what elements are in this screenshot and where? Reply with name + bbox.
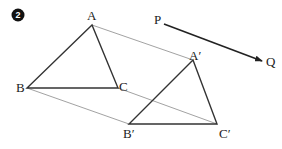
label-c-prime: C′ bbox=[219, 126, 231, 141]
label-c: C bbox=[119, 79, 128, 94]
label-p: P bbox=[154, 12, 161, 27]
label-q: Q bbox=[266, 54, 276, 69]
connector-c-c-prime bbox=[118, 88, 217, 124]
label-a: A bbox=[87, 8, 97, 23]
label-a-prime: A′ bbox=[189, 48, 201, 63]
problem-number: 2 bbox=[15, 10, 20, 20]
translation-diagram: 2 A B C A′ B′ C′ P Q bbox=[0, 0, 282, 149]
connector-a-a-prime bbox=[92, 25, 193, 60]
connector-b-b-prime bbox=[27, 88, 129, 124]
label-b: B bbox=[16, 80, 25, 95]
triangle-abc bbox=[27, 25, 118, 88]
problem-number-badge: 2 bbox=[12, 9, 25, 22]
translation-connectors bbox=[27, 25, 217, 124]
label-b-prime: B′ bbox=[123, 126, 135, 141]
triangle-a-prime-b-prime-c-prime bbox=[129, 60, 217, 124]
